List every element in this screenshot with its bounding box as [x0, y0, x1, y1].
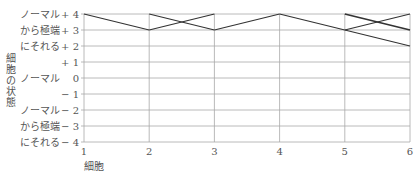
y-tick-labels: + 4+ 3+ 2+ 10− 1− 2− 3− 4 — [61, 9, 79, 148]
y-tick-label: − 1 — [61, 89, 79, 100]
series-segment — [280, 14, 345, 30]
y-tick-label: + 1 — [61, 57, 79, 68]
x-tick-label: 6 — [407, 146, 413, 157]
y-axis-title-char: 状 — [6, 85, 16, 97]
y-category-label: から極端 — [20, 120, 60, 132]
y-category-labels: ノーマルから極端にそれるノーマルノーマルから極端にそれる — [20, 9, 60, 148]
y-axis-title-char: 胞 — [6, 64, 16, 75]
x-tick-label: 2 — [146, 146, 152, 157]
y-tick-label: + 4 — [61, 9, 79, 20]
y-axis-title-char: の — [6, 75, 16, 86]
grid — [81, 14, 410, 142]
y-tick-label: − 3 — [61, 121, 79, 132]
line-chart: + 4+ 3+ 2+ 10− 1− 2− 3− 4 123456 ノーマルから極… — [0, 0, 419, 178]
y-axis-title-char: 細 — [6, 52, 16, 64]
x-tick-label: 4 — [276, 146, 282, 157]
y-axis-title-char: 態 — [6, 96, 16, 108]
y-category-label: にそれる — [20, 41, 60, 52]
x-tick-label: 3 — [211, 146, 217, 157]
x-axis-title: 細胞 — [84, 160, 104, 172]
y-category-label: から極端 — [20, 24, 60, 36]
series-segment — [345, 30, 410, 46]
x-tick-label: 5 — [342, 146, 348, 157]
x-tick-labels: 123456 — [81, 146, 413, 157]
y-category-label: ノーマル — [20, 9, 60, 20]
y-category-label: にそれる — [20, 137, 60, 148]
y-category-label: ノーマル — [20, 105, 60, 116]
y-axis-title: 細胞の状態 — [6, 52, 16, 108]
y-tick-label: 0 — [73, 73, 79, 84]
y-tick-label: − 2 — [61, 105, 79, 116]
y-tick-label: + 3 — [61, 25, 79, 36]
series-segment — [84, 14, 149, 30]
y-tick-label: − 4 — [61, 137, 79, 148]
y-category-label: ノーマル — [20, 73, 60, 84]
series-segment — [214, 14, 279, 30]
y-tick-label: + 2 — [61, 41, 79, 52]
x-tick-label: 1 — [81, 146, 87, 157]
